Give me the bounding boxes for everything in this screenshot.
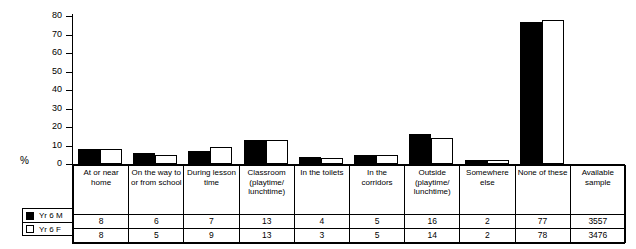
table-header-cell: On the way to or from school bbox=[129, 166, 184, 215]
bar-yr6f bbox=[100, 149, 122, 164]
table-header-cell: In the corridors bbox=[349, 166, 404, 215]
table-cell: 77 bbox=[515, 215, 570, 229]
table-cell: 16 bbox=[405, 215, 460, 229]
table-cell: 5 bbox=[349, 215, 404, 229]
bar-yr6f bbox=[155, 155, 177, 164]
table-header-row: At or near homeOn the way to or from sch… bbox=[74, 166, 626, 215]
bar-group bbox=[349, 16, 404, 164]
legend: Yr 6 M Yr 6 F bbox=[22, 208, 73, 236]
bar-group bbox=[293, 16, 348, 164]
table-cell: 3557 bbox=[570, 215, 625, 229]
chart-figure: 01020304050607080 % At or near homeOn th… bbox=[0, 0, 636, 249]
table-cell: 7 bbox=[184, 215, 239, 229]
bar-yr6m bbox=[409, 134, 431, 164]
table-header-cell: In the toilets bbox=[294, 166, 349, 215]
bar-group bbox=[514, 16, 569, 164]
y-axis-tick-label: 40 bbox=[42, 85, 62, 94]
table-cell: 8 bbox=[74, 215, 129, 229]
y-axis-tick-label: 30 bbox=[42, 104, 62, 113]
bar-yr6m bbox=[188, 151, 210, 164]
table-cell: 13 bbox=[239, 229, 294, 243]
table-cell: 2 bbox=[460, 229, 515, 243]
table-header-cell: Classroom (playtime/ lunchtime) bbox=[239, 166, 294, 215]
bar-yr6f bbox=[376, 155, 398, 164]
filled-square-icon bbox=[26, 212, 34, 220]
y-axis-tick-label: 0 bbox=[42, 159, 62, 168]
bar-yr6f bbox=[210, 147, 232, 164]
table-cell: 3 bbox=[294, 229, 349, 243]
y-axis-unit-label: % bbox=[20, 155, 29, 166]
bar-yr6m bbox=[133, 153, 155, 164]
table-cell: 78 bbox=[515, 229, 570, 243]
bar-group bbox=[72, 16, 127, 164]
bar-group bbox=[127, 16, 182, 164]
legend-label: Yr 6 M bbox=[39, 211, 63, 220]
bar-group bbox=[459, 16, 514, 164]
table-cell: 13 bbox=[239, 215, 294, 229]
table-header-cell: During lesson time bbox=[184, 166, 239, 215]
bar-yr6m bbox=[354, 155, 376, 164]
plot-area bbox=[72, 16, 625, 164]
bar-yr6m bbox=[520, 22, 542, 164]
table-header-cell: Outside (playtime/ lunchtime) bbox=[405, 166, 460, 215]
bar-yr6m bbox=[78, 149, 100, 164]
y-axis-tick-label: 20 bbox=[42, 122, 62, 131]
table-cell: 6 bbox=[129, 215, 184, 229]
table-cell: 9 bbox=[184, 229, 239, 243]
table-cell: 14 bbox=[405, 229, 460, 243]
table-header-cell: At or near home bbox=[74, 166, 129, 215]
table-header-cell: Available sample bbox=[570, 166, 625, 215]
table-row: 8591335142783476 bbox=[74, 229, 626, 243]
bar-group bbox=[404, 16, 459, 164]
table-cell: 2 bbox=[460, 215, 515, 229]
bar-yr6f bbox=[542, 20, 564, 164]
legend-item-yr6f: Yr 6 F bbox=[23, 222, 72, 235]
table-cell: 4 bbox=[294, 215, 349, 229]
table-cell: 8 bbox=[74, 229, 129, 243]
table-cell: 5 bbox=[349, 229, 404, 243]
table-cell: 5 bbox=[129, 229, 184, 243]
y-axis-tick-label: 10 bbox=[42, 141, 62, 150]
bar-yr6m bbox=[299, 157, 321, 164]
bar-yr6f bbox=[266, 140, 288, 164]
y-axis-tick-label: 70 bbox=[42, 30, 62, 39]
table-header-cell: Somewhere else bbox=[460, 166, 515, 215]
table-cell: 3476 bbox=[570, 229, 625, 243]
data-table: At or near homeOn the way to or from sch… bbox=[72, 164, 625, 244]
bar-group bbox=[183, 16, 238, 164]
hollow-square-icon bbox=[26, 225, 34, 233]
table-header-cell: None of these bbox=[515, 166, 570, 215]
y-axis-tick-label: 50 bbox=[42, 67, 62, 76]
legend-label: Yr 6 F bbox=[39, 225, 61, 234]
y-axis-tick-label: 60 bbox=[42, 48, 62, 57]
legend-item-yr6m: Yr 6 M bbox=[23, 209, 72, 222]
bar-yr6m bbox=[244, 140, 266, 164]
y-axis-tick-label: 80 bbox=[42, 11, 62, 20]
table-row: 8671345162773557 bbox=[74, 215, 626, 229]
bar-group bbox=[238, 16, 293, 164]
bar-yr6f bbox=[431, 138, 453, 164]
